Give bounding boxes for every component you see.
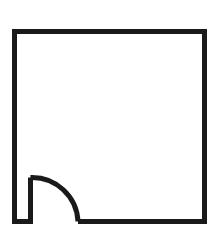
- room-outline-icon: [0, 0, 218, 239]
- figure-container: D: [0, 0, 218, 239]
